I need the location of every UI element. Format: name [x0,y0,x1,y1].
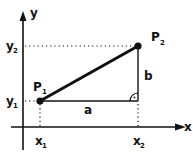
p1-label: P 1 [33,80,47,96]
x-axis [11,124,186,131]
y-axis-label: y [30,6,38,20]
y1-tick-label: y 1 [6,94,18,110]
svg-text:P: P [151,30,160,44]
leg-b-label: b [144,69,153,83]
y-axis-arrow-icon [20,11,27,21]
x2-tick-label: x 2 [133,134,145,150]
svg-text:P: P [33,80,42,94]
svg-text:1: 1 [42,88,47,96]
leg-a-label: a [84,103,92,117]
coordinate-diagram: y x P 1 P 2 a b y 2 y 1 [0,0,193,155]
svg-text:2: 2 [13,47,18,55]
guide-lines [25,46,138,126]
hypotenuse [40,46,138,101]
svg-text:2: 2 [160,39,165,47]
x1-tick-label: x 1 [35,134,47,150]
p2-label: P 2 [151,30,165,47]
point-p1 [36,97,43,104]
svg-text:1: 1 [13,102,18,110]
x-axis-label: x [184,120,192,134]
point-p2 [134,42,141,49]
y-axis [20,11,27,150]
right-angle-icon [130,93,138,101]
svg-text:1: 1 [42,142,47,150]
y2-tick-label: y 2 [6,39,18,55]
svg-text:2: 2 [140,142,145,150]
